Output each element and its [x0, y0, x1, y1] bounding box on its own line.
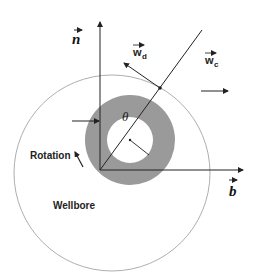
rotation-arrow — [75, 152, 83, 167]
wellbore-label: Wellbore — [53, 200, 95, 211]
rotation-label: Rotation — [30, 150, 71, 161]
wc-subscript: c — [214, 60, 219, 69]
wc-label: w — [204, 54, 214, 66]
wd-label: w — [132, 46, 142, 58]
wellbore-diagram: n b w d w c θ Rotation Wellbore — [0, 0, 257, 277]
bore-center — [129, 139, 131, 141]
wd-arrow — [124, 63, 160, 88]
theta-label: θ — [122, 109, 129, 124]
wd-subscript: d — [142, 52, 147, 61]
n-vector-label: n — [72, 31, 80, 47]
b-vector-label: b — [229, 183, 237, 199]
